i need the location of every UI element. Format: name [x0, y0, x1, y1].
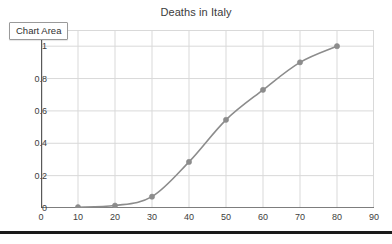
data-point[interactable]	[223, 117, 228, 122]
x-axis-tick: 50	[211, 212, 241, 222]
bottom-divider	[0, 231, 392, 234]
data-point[interactable]	[75, 205, 80, 208]
y-axis-tick: 0.8	[13, 74, 47, 84]
data-point[interactable]	[260, 87, 265, 92]
plot-area[interactable]	[41, 30, 374, 208]
x-axis-tick: 70	[285, 212, 315, 222]
chart-title: Deaths in Italy	[0, 6, 392, 18]
x-axis-tick: 40	[174, 212, 204, 222]
y-axis-tick: 0.2	[13, 171, 47, 181]
x-axis-tick: 80	[322, 212, 352, 222]
x-axis-tick: 60	[248, 212, 278, 222]
series-line-deaths	[78, 46, 337, 207]
grid-lines	[41, 30, 374, 208]
data-point[interactable]	[297, 60, 302, 65]
data-point[interactable]	[112, 203, 117, 208]
data-point[interactable]	[186, 159, 191, 164]
chart-area-tooltip: Chart Area	[9, 22, 68, 40]
y-axis-tick: 0.6	[13, 106, 47, 116]
x-axis-tick: 0	[26, 212, 56, 222]
x-axis-tick: 20	[100, 212, 130, 222]
chart-container: Deaths in Italy Chart Area 00.20.40.60.8…	[0, 0, 392, 244]
x-axis-tick: 10	[63, 212, 93, 222]
axis-lines	[41, 30, 374, 208]
data-point[interactable]	[334, 44, 339, 49]
y-axis-tick: 0.4	[13, 138, 47, 148]
data-point[interactable]	[149, 194, 154, 199]
x-axis-tick: 90	[359, 212, 389, 222]
x-axis-tick: 30	[137, 212, 167, 222]
chart-plot-svg	[41, 30, 374, 208]
y-axis-tick: 1	[13, 41, 47, 51]
